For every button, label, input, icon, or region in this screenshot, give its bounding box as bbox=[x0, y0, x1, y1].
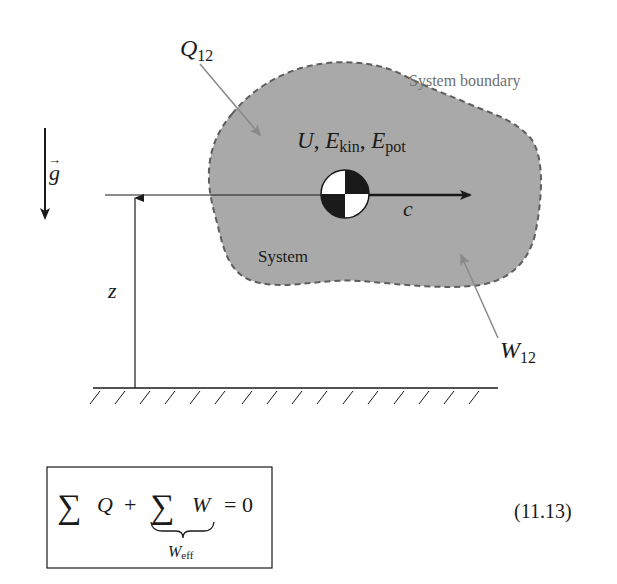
ground bbox=[90, 388, 498, 404]
system-label: System bbox=[258, 247, 308, 266]
equation-w: W bbox=[192, 492, 212, 517]
vector-arrow-icon: → bbox=[48, 152, 61, 167]
equation-q: Q bbox=[97, 492, 113, 517]
heat-label: Q12 bbox=[180, 35, 213, 64]
underbrace-label: Weff bbox=[168, 543, 194, 561]
equation-number: (11.13) bbox=[514, 500, 572, 523]
equation-box: ∑ Q + ∑ W = 0 Weff bbox=[47, 467, 272, 568]
height-label: z bbox=[107, 278, 117, 303]
equation-plus: + bbox=[124, 492, 136, 517]
sum-symbol-q: ∑ bbox=[57, 488, 81, 526]
center-of-mass-icon bbox=[321, 170, 369, 218]
velocity-label: c bbox=[403, 196, 413, 221]
system-boundary-label: System boundary bbox=[409, 72, 521, 90]
sum-symbol-w: ∑ bbox=[150, 488, 174, 526]
work-label: W12 bbox=[500, 337, 536, 366]
equation-equals-zero: = 0 bbox=[224, 492, 253, 517]
energy-balance-diagram: Q12 System boundary U, Ekin, Epot c Syst… bbox=[0, 0, 617, 584]
